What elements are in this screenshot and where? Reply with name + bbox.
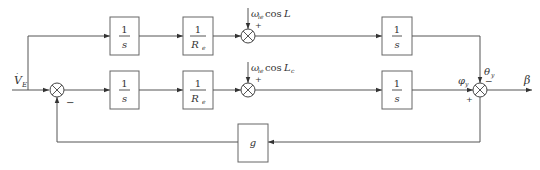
block-re-top: 1 R e xyxy=(183,17,213,55)
phi-label: φ xyxy=(458,75,465,86)
minus-sign: − xyxy=(66,97,74,108)
output-label: β xyxy=(523,74,530,87)
svg-text:R: R xyxy=(190,39,199,50)
svg-text:1: 1 xyxy=(394,78,400,89)
block-gain-g: g xyxy=(238,124,268,162)
dot-icon: · xyxy=(16,69,19,78)
svg-text:L: L xyxy=(283,62,291,73)
svg-text:cos: cos xyxy=(265,8,282,19)
svg-text:L: L xyxy=(283,8,291,19)
block-diagram: V E · − 1 s 1 R e ω ie cos L + xyxy=(0,0,540,170)
svg-text:s: s xyxy=(394,39,399,50)
sum-right: φ y + θ y − xyxy=(458,66,495,104)
svg-text:s: s xyxy=(122,39,127,50)
block-int-bot-2: 1 s xyxy=(382,71,412,109)
svg-text:+: + xyxy=(255,75,262,84)
svg-text:1: 1 xyxy=(195,78,201,89)
input-label-sub: E xyxy=(21,81,27,89)
svg-text:c: c xyxy=(291,67,295,74)
svg-text:ie: ie xyxy=(258,13,264,20)
sum-left: − xyxy=(50,83,74,108)
svg-text:1: 1 xyxy=(394,24,400,35)
block-int-top-2: 1 s xyxy=(382,17,412,55)
svg-text:e: e xyxy=(202,44,206,51)
svg-text:cos: cos xyxy=(265,62,282,73)
svg-text:ie: ie xyxy=(258,67,264,74)
svg-text:−: − xyxy=(485,76,493,86)
svg-text:e: e xyxy=(202,98,206,105)
svg-text:g: g xyxy=(250,137,256,148)
svg-text:s: s xyxy=(122,93,127,104)
sum-bot: ω ie cos L c + xyxy=(241,62,295,97)
input-signal: V E · xyxy=(12,36,110,90)
svg-text:1: 1 xyxy=(121,24,127,35)
sum-top: ω ie cos L + xyxy=(241,8,291,43)
svg-text:s: s xyxy=(394,93,399,104)
svg-text:+: + xyxy=(255,21,262,30)
svg-text:1: 1 xyxy=(195,24,201,35)
svg-text:+: + xyxy=(466,95,473,104)
block-int-top-1: 1 s xyxy=(110,17,139,55)
svg-text:R: R xyxy=(190,93,199,104)
block-re-bot: 1 R e xyxy=(183,71,213,109)
block-int-bot-1: 1 s xyxy=(110,71,139,109)
svg-text:1: 1 xyxy=(121,78,127,89)
svg-text:y: y xyxy=(464,80,469,88)
